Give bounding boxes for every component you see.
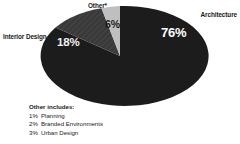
slice-value-architecture: 76% [161,26,186,39]
footnote-item-percent: 3% [29,130,41,136]
slice-value-other: 6% [105,19,120,30]
footnote-title: Other includes: [29,104,179,110]
footnote-item-percent: 2% [29,121,41,127]
footnote-item: 3% Urban Design [29,130,179,136]
footnote-block: Other includes: 1% Planning 2% Branded E… [29,104,179,138]
pie-chart: Architecture Interior Design Other* 76% … [0,0,240,144]
slice-label-interior-design: Interior Design [3,34,47,40]
footnote-item: 2% Branded Environments [29,121,179,127]
footnote-item-name: Planning [41,113,65,119]
slice-value-interior-design: 18% [57,37,79,49]
slice-label-other: Other* [88,3,107,9]
footnote-item-percent: 1% [29,113,41,119]
slice-label-architecture: Architecture [201,12,237,18]
footnote-item-name: Branded Environments [41,121,103,127]
footnote-item: 1% Planning [29,113,179,119]
footnote-item-name: Urban Design [41,130,78,136]
